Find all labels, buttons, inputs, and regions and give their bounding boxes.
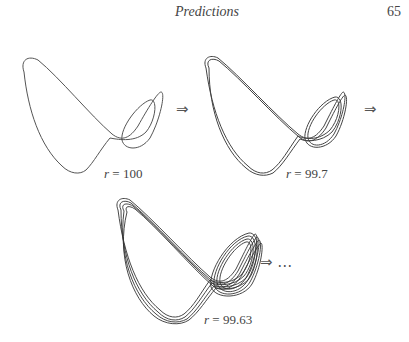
orbit-r99-63 xyxy=(117,198,262,323)
implies-arrow-ellipsis: ⇒ … xyxy=(260,253,292,271)
orbit-r100 xyxy=(23,58,163,173)
implies-arrow-1: ⇒ xyxy=(176,100,189,118)
value-text: = 99.63 xyxy=(209,312,252,327)
value-text: = 99.7 xyxy=(291,166,328,181)
figure-label-r99-7: r = 99.7 xyxy=(286,166,328,182)
figure-label-r99-63: r = 99.63 xyxy=(204,312,252,328)
figure-label-r100: r = 100 xyxy=(104,166,142,182)
value-text: = 100 xyxy=(109,166,142,181)
orbit-r99-7 xyxy=(205,56,347,175)
implies-arrow-2: ⇒ xyxy=(364,100,377,118)
lorenz-orbit-figures xyxy=(0,0,409,342)
